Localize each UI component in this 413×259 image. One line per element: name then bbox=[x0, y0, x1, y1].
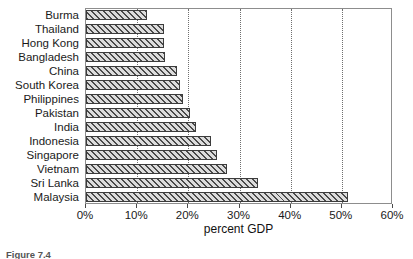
category-label: Burma bbox=[45, 8, 79, 22]
bar bbox=[86, 10, 147, 20]
plot-area bbox=[85, 8, 392, 204]
category-label: Vietnam bbox=[37, 162, 79, 176]
bar bbox=[86, 24, 164, 34]
bar-row bbox=[86, 135, 391, 149]
bar bbox=[86, 66, 177, 76]
bar bbox=[86, 178, 258, 188]
bar-row bbox=[86, 79, 391, 93]
bar-row bbox=[86, 177, 391, 191]
category-label: China bbox=[49, 64, 79, 78]
bar-row bbox=[86, 51, 391, 65]
bar bbox=[86, 164, 227, 174]
bar-row bbox=[86, 93, 391, 107]
x-tick-label: 60% bbox=[380, 208, 403, 222]
bar-row bbox=[86, 23, 391, 37]
figure-caption: Figure 7.4 bbox=[6, 248, 411, 259]
figure-bar-chart: BurmaThailandHong KongBangladeshChinaSou… bbox=[0, 0, 413, 259]
bar-row bbox=[86, 149, 391, 163]
x-tick-label: 20% bbox=[176, 208, 199, 222]
bar bbox=[86, 52, 165, 62]
bar bbox=[86, 38, 164, 48]
bar bbox=[86, 122, 196, 132]
x-tick-label: 10% bbox=[125, 208, 148, 222]
bar-row bbox=[86, 163, 391, 177]
category-label: Indonesia bbox=[29, 134, 79, 148]
category-label: South Korea bbox=[15, 78, 79, 92]
bar-row bbox=[86, 107, 391, 121]
bar bbox=[86, 192, 348, 202]
category-label: Singapore bbox=[27, 148, 79, 162]
category-label: Philippines bbox=[23, 92, 79, 106]
bar-row bbox=[86, 37, 391, 51]
category-label: Bangladesh bbox=[18, 50, 79, 64]
bar bbox=[86, 94, 183, 104]
category-label: India bbox=[54, 120, 79, 134]
figure-caption-label: Figure 7.4 bbox=[6, 249, 51, 259]
x-axis-title: percent GDP bbox=[85, 222, 392, 236]
category-label: Malaysia bbox=[34, 190, 79, 204]
x-tick-label: 30% bbox=[227, 208, 250, 222]
category-label: Pakistan bbox=[35, 106, 79, 120]
category-label: Thailand bbox=[35, 22, 79, 36]
bar-row bbox=[86, 121, 391, 135]
bar-row bbox=[86, 9, 391, 23]
bar bbox=[86, 80, 180, 90]
bar bbox=[86, 108, 190, 118]
value-axis-ticks: 0%10%20%30%40%50%60% bbox=[85, 204, 392, 222]
bar-series bbox=[86, 9, 391, 203]
bar bbox=[86, 136, 211, 146]
x-tick-label: 50% bbox=[329, 208, 352, 222]
bar bbox=[86, 150, 217, 160]
category-axis-labels: BurmaThailandHong KongBangladeshChinaSou… bbox=[0, 8, 82, 204]
bar-row bbox=[86, 191, 391, 205]
x-tick-label: 0% bbox=[77, 208, 94, 222]
x-tick-label: 40% bbox=[278, 208, 301, 222]
category-label: Hong Kong bbox=[21, 36, 79, 50]
bar-row bbox=[86, 65, 391, 79]
category-label: Sri Lanka bbox=[30, 176, 79, 190]
